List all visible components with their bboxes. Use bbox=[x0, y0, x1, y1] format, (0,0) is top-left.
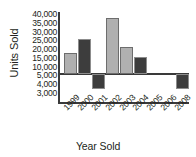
y-axis-tick-labels: 40,00035,00030,00025,00020,00015,00010,0… bbox=[23, 13, 57, 101]
bar-2004[interactable] bbox=[134, 57, 147, 75]
bar-1999[interactable] bbox=[64, 53, 77, 74]
bar-2002[interactable] bbox=[106, 18, 119, 74]
bar-chart-figure: Units Sold 40,00035,00030,00025,00020,00… bbox=[0, 0, 196, 157]
x-axis-title: Year Sold bbox=[0, 140, 196, 152]
x-axis-tick-labels: 199920002001200220032004200520062008 bbox=[58, 106, 193, 138]
y-tick-label: 3,000 bbox=[23, 89, 57, 98]
bar-2003[interactable] bbox=[120, 47, 133, 74]
y-axis-title: Units Sold bbox=[7, 18, 21, 88]
bar-2000[interactable] bbox=[78, 39, 91, 74]
